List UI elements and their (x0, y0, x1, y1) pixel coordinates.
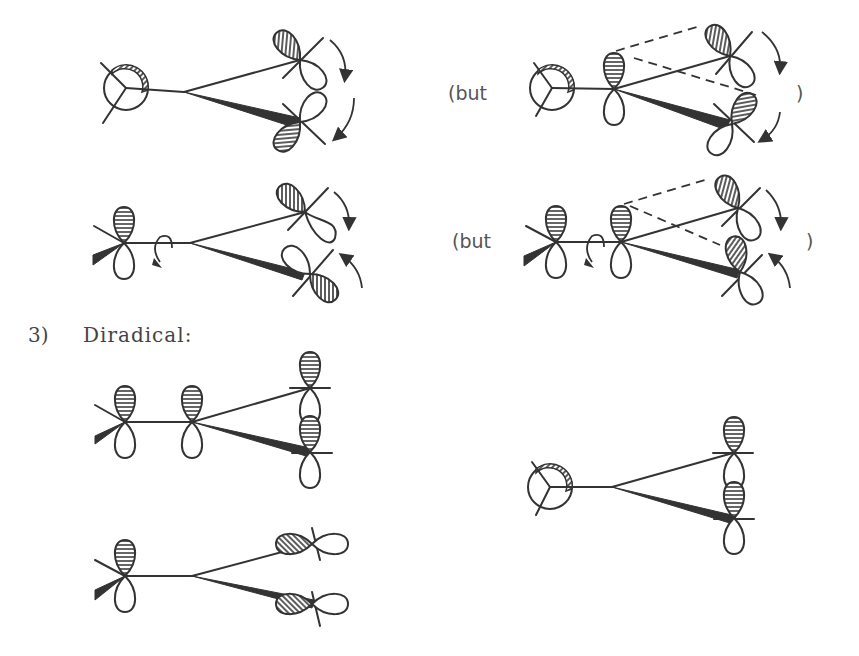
panel-row2-left (93, 179, 362, 306)
panel-diradical-1 (95, 352, 332, 488)
section-title: Diradical: (83, 323, 192, 347)
section-header: 3) Diradical: (28, 323, 192, 347)
but-label-row2: (but (452, 230, 491, 252)
panel-diradical-3 (528, 417, 754, 554)
panel-row2-right: (but ) (452, 172, 813, 308)
panel-diradical-2 (95, 528, 348, 626)
but-label-row1: (but (448, 82, 487, 104)
panel-row1-left (101, 26, 354, 156)
orbital-diagram: (but ) (0, 0, 859, 656)
close-paren-row2: ) (806, 230, 813, 252)
section-number: 3) (28, 323, 49, 347)
close-paren-row1: ) (796, 82, 803, 104)
panel-row1-right: (but ) (448, 21, 803, 160)
